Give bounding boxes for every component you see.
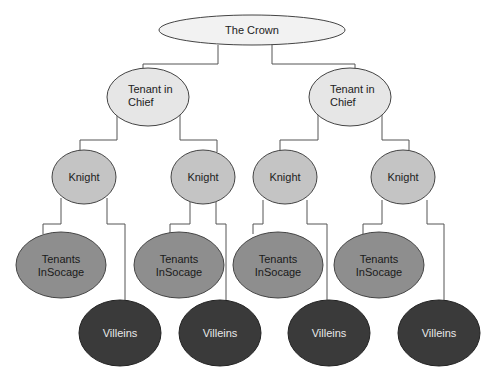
knight3-label: Knight (269, 171, 300, 183)
tic1-label-line1: Tenant in (128, 83, 173, 95)
socage2-label-line1: Tenants (160, 253, 199, 265)
villein2-label: Villeins (203, 327, 238, 339)
node-knight-2: Knight (171, 150, 235, 204)
knight4-label: Knight (387, 171, 418, 183)
socage1-label-line2: InSocage (38, 266, 84, 278)
socage1-label-line1: Tenants (42, 253, 81, 265)
villein1-label: Villeins (103, 327, 138, 339)
crown-label: The Crown (225, 24, 279, 36)
socage3-label-line2: InSocage (255, 266, 301, 278)
node-tenants-in-socage-3: Tenants InSocage (233, 232, 323, 298)
villein4-label: Villeins (422, 327, 457, 339)
node-knight-3: Knight (253, 150, 317, 204)
node-tenants-in-socage-4: Tenants InSocage (334, 232, 424, 298)
socage4-label-line2: InSocage (356, 266, 402, 278)
node-knight-1: Knight (52, 150, 116, 204)
tic2-label-line1: Tenant in (330, 83, 375, 95)
knight2-label: Knight (187, 171, 218, 183)
node-villeins-1: Villeins (79, 300, 161, 366)
node-knight-4: Knight (371, 150, 435, 204)
node-tenant-in-chief-2: Tenant in Chief (309, 68, 391, 126)
knight1-label: Knight (68, 171, 99, 183)
socage2-label-line2: InSocage (156, 266, 202, 278)
node-villeins-3: Villeins (288, 300, 370, 366)
node-villeins-2: Villeins (179, 300, 261, 366)
socage4-label-line1: Tenants (360, 253, 399, 265)
node-the-crown: The Crown (159, 15, 345, 45)
node-villeins-4: Villeins (398, 300, 480, 366)
socage3-label-line1: Tenants (259, 253, 298, 265)
node-tenant-in-chief-1: Tenant in Chief (107, 68, 189, 126)
tic1-label-line2: Chief (128, 96, 155, 108)
tic2-label-line2: Chief (330, 96, 357, 108)
node-tenants-in-socage-2: Tenants InSocage (134, 232, 224, 298)
feudal-hierarchy-diagram: The Crown Tenant in Chief Tenant in Chie… (0, 0, 495, 382)
villein3-label: Villeins (312, 327, 347, 339)
node-tenants-in-socage-1: Tenants InSocage (16, 232, 106, 298)
